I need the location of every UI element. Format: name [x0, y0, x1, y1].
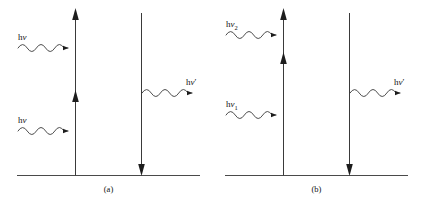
panel-b-absorption-wave-upper [226, 32, 276, 39]
panel-b-emission-label: hν′ [394, 77, 405, 87]
panel-b-excitation-arrowhead-mid [280, 52, 287, 64]
panel-b-excitation-arrowhead-top [280, 8, 287, 20]
panel-a-emission-label: hν′ [186, 77, 197, 87]
panel-a-caption: (a) [104, 184, 114, 194]
panel-b: hν2 hν1 hν′ (b) [225, 8, 408, 194]
panel-a: hν hν hν′ (a) [17, 8, 200, 194]
panel-b-caption: (b) [312, 184, 322, 194]
diagram-canvas: hν hν hν′ (a) [0, 0, 423, 202]
panel-a-absorption-label-lower: hν [18, 115, 27, 125]
panel-a-excitation-arrowhead-mid [72, 90, 79, 102]
panel-b-absorption-wave-lower [226, 112, 276, 119]
panel-b-emission-wave [350, 90, 400, 97]
panel-a-emission-wave [142, 90, 192, 97]
panel-a-excitation-arrowhead-top [72, 8, 79, 20]
panel-b-emission-arrowhead [346, 164, 353, 176]
panel-a-absorption-label-upper: hν [18, 32, 27, 42]
panel-a-absorption-wave-upper [18, 45, 68, 52]
panel-a-absorption-wave-lower [18, 128, 68, 135]
panel-b-absorption-label-lower: hν1 [226, 99, 238, 111]
figure-root: hν hν hν′ (a) [0, 0, 423, 202]
panel-b-absorption-label-upper: hν2 [226, 19, 238, 31]
panel-a-emission-arrowhead [138, 164, 145, 176]
